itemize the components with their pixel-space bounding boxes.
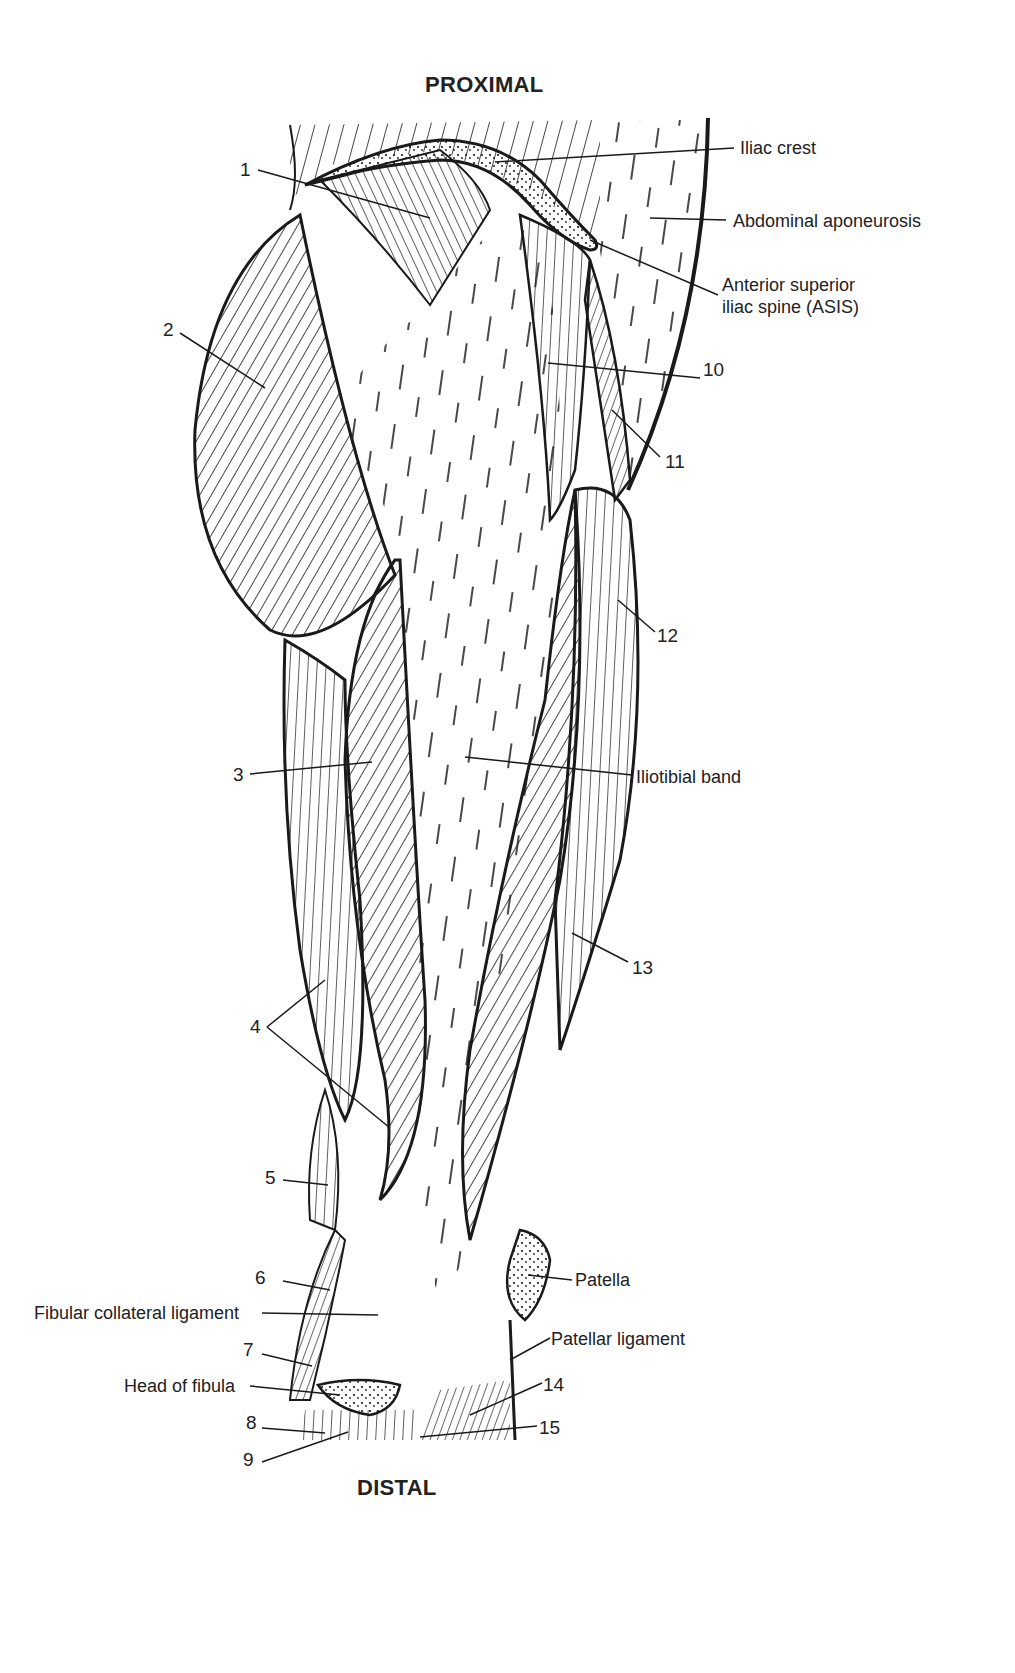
- label-10: 10: [703, 360, 724, 379]
- head-of-fibula-bone: [318, 1380, 400, 1415]
- label-5: 5: [265, 1168, 276, 1187]
- leg-anatomy-illustration: [0, 0, 1015, 1673]
- label-6: 6: [255, 1268, 266, 1287]
- label-asis-line1: Anterior superior: [722, 276, 855, 294]
- label-15: 15: [539, 1418, 560, 1437]
- label-iliac-crest: Iliac crest: [740, 139, 816, 157]
- label-fibular-collateral-ligament: Fibular collateral ligament: [34, 1304, 239, 1322]
- label-13: 13: [632, 958, 653, 977]
- label-7: 7: [243, 1340, 254, 1359]
- gastrocnemius-lateral: [309, 1090, 338, 1230]
- label-14: 14: [543, 1375, 564, 1394]
- label-3: 3: [233, 765, 244, 784]
- label-8: 8: [246, 1413, 257, 1432]
- label-abdominal-aponeurosis: Abdominal aponeurosis: [733, 212, 921, 230]
- label-patella: Patella: [575, 1271, 630, 1289]
- label-9: 9: [243, 1450, 254, 1469]
- label-4: 4: [250, 1017, 261, 1036]
- label-11: 11: [665, 452, 685, 471]
- label-patellar-ligament: Patellar ligament: [551, 1330, 685, 1348]
- label-1: 1: [240, 160, 251, 179]
- label-12: 12: [657, 626, 678, 645]
- label-2: 2: [163, 320, 174, 339]
- label-iliotibial-band: Iliotibial band: [636, 768, 741, 786]
- label-head-of-fibula: Head of fibula: [124, 1377, 235, 1395]
- label-asis-line2: iliac spine (ASIS): [722, 298, 859, 316]
